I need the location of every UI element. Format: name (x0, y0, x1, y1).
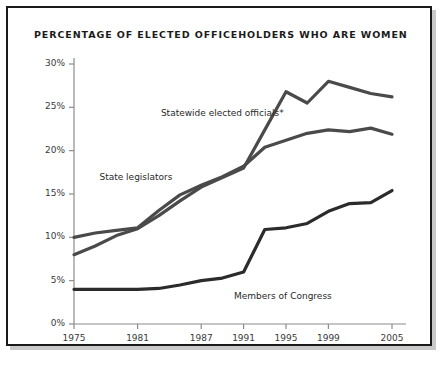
x-axis-tick-label: 1999 (303, 333, 353, 343)
x-axis-tick-label: 1981 (113, 333, 163, 343)
series-label-0: Statewide elected officials* (161, 108, 284, 118)
series-line-1 (74, 128, 392, 237)
y-axis-tick-label: 0% (27, 318, 65, 328)
x-axis-tick-label: 1975 (49, 333, 99, 343)
y-axis-tick-label: 5% (27, 275, 65, 285)
x-axis-tick-label: 2005 (367, 333, 417, 343)
y-axis-tick-label: 10% (27, 231, 65, 241)
series-line-2 (74, 191, 392, 290)
y-axis-tick-label: 15% (27, 188, 65, 198)
chart-figure-frame: PERCENTAGE OF ELECTED OFFICEHOLDERS WHO … (6, 6, 432, 346)
line-chart-plot (8, 8, 434, 348)
chart-title: PERCENTAGE OF ELECTED OFFICEHOLDERS WHO … (34, 29, 408, 40)
series-label-1: State legislators (99, 172, 172, 182)
y-axis-tick-label: 25% (27, 101, 65, 111)
series-label-2: Members of Congress (234, 291, 332, 301)
y-axis-tick-label: 30% (27, 58, 65, 68)
y-axis-tick-label: 20% (27, 145, 65, 155)
